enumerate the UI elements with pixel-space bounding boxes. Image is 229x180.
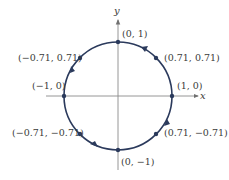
label-point-0-neg1: (0, −1) <box>121 156 155 167</box>
label-point-071-071: (0.71, 0.71) <box>164 52 220 63</box>
label-point-071-neg071: (0.71, −0.71) <box>164 127 228 138</box>
y-axis-label: y <box>113 5 120 16</box>
point-0-neg1 <box>116 148 120 152</box>
point-0-1 <box>116 40 120 44</box>
label-point-neg071-neg071: (−0.71, −0.71) <box>12 127 84 138</box>
label-point-0-1: (0, 1) <box>122 28 148 39</box>
point-neg1-0 <box>62 94 66 98</box>
label-point-neg1-0: (−1, 0) <box>32 80 66 91</box>
label-point-1-0: (1, 0) <box>177 80 203 91</box>
x-axis-label: x <box>200 90 206 101</box>
point-071-neg071 <box>154 132 158 136</box>
point-1-0 <box>170 94 174 98</box>
label-point-neg071-071: (−0.71, 0.71) <box>18 52 82 63</box>
point-071-071 <box>154 56 158 60</box>
unit-circle-diagram: x y (0, 1) (0.71, 0.71) (−0.71, 0.71) (−… <box>0 0 229 180</box>
direction-arrow-icon <box>70 46 170 147</box>
